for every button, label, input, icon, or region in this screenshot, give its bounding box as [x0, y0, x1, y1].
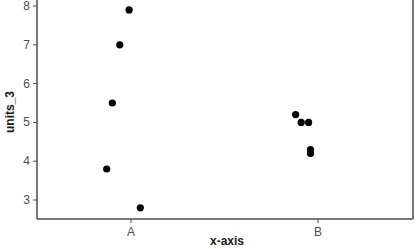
x-axis-title: x-axis [210, 234, 244, 248]
data-point [109, 99, 116, 106]
y-tick-label: 5 [23, 115, 30, 129]
y-tick-label: 7 [23, 38, 30, 52]
chart-background [0, 0, 417, 249]
y-tick-label: 3 [23, 193, 30, 207]
data-point [305, 119, 312, 126]
data-point [126, 6, 133, 13]
x-tick-label: B [314, 225, 322, 239]
data-point [307, 150, 314, 157]
y-axis-title: units_3 [3, 91, 17, 133]
y-tick-label: 8 [23, 0, 30, 13]
x-tick-label: A [127, 225, 135, 239]
scatter-chart: 345678 AB x-axis units_3 [0, 0, 417, 249]
data-point [137, 204, 144, 211]
y-tick-label: 4 [23, 154, 30, 168]
data-point [292, 111, 299, 118]
data-point [298, 119, 305, 126]
data-point [103, 165, 110, 172]
data-point [116, 41, 123, 48]
y-tick-label: 6 [23, 77, 30, 91]
